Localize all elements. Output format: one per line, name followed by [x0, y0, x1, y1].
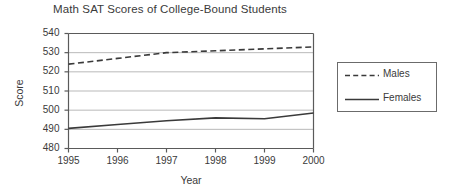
y-tick-label: 540	[32, 27, 60, 38]
y-tick-label: 520	[32, 65, 60, 76]
x-tick-label: 1998	[196, 155, 236, 166]
x-tick-label: 1995	[49, 155, 89, 166]
y-tick-label: 530	[32, 46, 60, 57]
legend-label-females: Females	[383, 92, 435, 103]
y-axis-title: Score	[13, 63, 25, 123]
x-axis-title: Year	[68, 174, 314, 186]
x-tick-label: 1996	[98, 155, 138, 166]
y-tick-label: 490	[32, 123, 60, 134]
legend-item-males[interactable]: Males	[338, 63, 438, 88]
legend-swatch-dashed-icon	[345, 74, 379, 77]
x-tick-label: 1997	[147, 155, 187, 166]
chart-legend: Males Females	[337, 62, 437, 112]
legend-swatch-solid-icon	[345, 98, 379, 101]
axis-ticks	[65, 34, 314, 153]
x-tick-label: 2000	[294, 155, 334, 166]
data-series-layer	[69, 47, 314, 128]
series-line-females	[69, 113, 314, 128]
y-tick-label: 510	[32, 85, 60, 96]
y-tick-label: 480	[32, 142, 60, 153]
chart-figure: Math SAT Scores of College-Bound Student…	[0, 0, 459, 196]
legend-item-females[interactable]: Females	[338, 87, 438, 112]
series-line-males	[69, 47, 314, 64]
x-tick-label: 1999	[245, 155, 285, 166]
legend-label-males: Males	[383, 68, 435, 79]
y-tick-label: 500	[32, 104, 60, 115]
